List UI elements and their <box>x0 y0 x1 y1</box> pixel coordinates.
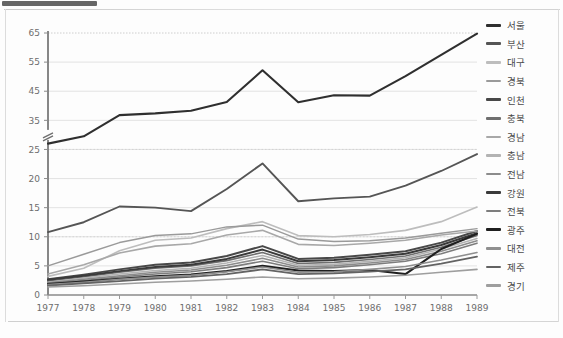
svg-text:5: 5 <box>34 261 40 271</box>
legend-swatch-icon <box>486 24 501 27</box>
svg-text:15: 15 <box>29 203 40 213</box>
legend-item[interactable]: 제주 <box>486 258 558 277</box>
legend-swatch-icon <box>486 173 501 176</box>
legend-item[interactable]: 충북 <box>486 109 558 128</box>
legend-item-label: 전북 <box>507 204 525 218</box>
svg-text:1986: 1986 <box>358 303 381 313</box>
legend-item[interactable]: 광주 <box>486 221 558 240</box>
plot-area: 051015202535455565 197719781979198019811… <box>0 0 563 338</box>
svg-text:10: 10 <box>29 232 41 242</box>
legend-item[interactable]: 전남 <box>486 165 558 184</box>
svg-text:1977: 1977 <box>37 303 60 313</box>
svg-text:1988: 1988 <box>430 303 453 313</box>
legend-swatch-icon <box>486 154 501 156</box>
legend-item-label: 경북 <box>507 74 525 88</box>
line-chart: 051015202535455565 197719781979198019811… <box>0 0 563 338</box>
legend-item[interactable]: 경기 <box>486 276 558 295</box>
y-axis: 051015202535455565 <box>29 28 48 300</box>
legend-swatch-icon <box>486 42 501 45</box>
svg-text:20: 20 <box>29 174 41 184</box>
legend-swatch-icon <box>486 117 501 120</box>
svg-text:1982: 1982 <box>215 303 238 313</box>
svg-text:1983: 1983 <box>251 303 274 313</box>
legend-item-label: 서울 <box>507 18 525 32</box>
legend-item[interactable]: 대전 <box>486 239 558 258</box>
svg-text:1987: 1987 <box>394 303 417 313</box>
legend-item-label: 대구 <box>507 55 525 69</box>
legend-swatch-icon <box>486 80 501 82</box>
legend-swatch-icon <box>486 284 501 287</box>
legend-item-label: 제주 <box>507 260 525 274</box>
legend-swatch-icon <box>486 247 501 250</box>
legend-item-label: 충남 <box>507 148 525 162</box>
svg-text:25: 25 <box>29 145 40 155</box>
legend-swatch-icon <box>486 61 501 64</box>
svg-text:1981: 1981 <box>180 303 203 313</box>
legend-swatch-icon <box>486 191 501 194</box>
legend-item[interactable]: 충남 <box>486 146 558 165</box>
series-line <box>48 34 477 144</box>
svg-text:45: 45 <box>29 86 40 96</box>
svg-text:65: 65 <box>29 28 40 38</box>
legend-swatch-icon <box>486 228 501 231</box>
x-axis: 1977197819791980198119821983198419851986… <box>37 295 489 313</box>
legend-item[interactable]: 부산 <box>486 35 558 54</box>
legend-item-label: 부산 <box>507 37 525 51</box>
legend-item-label: 충북 <box>507 111 525 125</box>
legend-item-label: 전남 <box>507 167 525 181</box>
legend-swatch-icon <box>486 266 501 269</box>
svg-text:55: 55 <box>29 57 40 67</box>
legend: 서울부산대구경북인천충북경남충남전남강원전북광주대전제주경기 <box>486 16 558 295</box>
legend-item[interactable]: 대구 <box>486 53 558 72</box>
legend-item-label: 광주 <box>507 223 525 237</box>
legend-item[interactable]: 강원 <box>486 183 558 202</box>
svg-text:1979: 1979 <box>108 303 131 313</box>
legend-item-label: 경기 <box>507 279 525 293</box>
svg-text:1985: 1985 <box>323 303 346 313</box>
legend-item[interactable]: 서울 <box>486 16 558 35</box>
svg-text:0: 0 <box>34 290 40 300</box>
axis-break-marker <box>43 130 53 141</box>
series-line <box>48 154 477 232</box>
svg-text:35: 35 <box>29 116 40 126</box>
svg-text:1980: 1980 <box>144 303 167 313</box>
legend-swatch-icon <box>486 98 501 101</box>
legend-item-label: 강원 <box>507 186 525 200</box>
legend-item[interactable]: 경북 <box>486 72 558 91</box>
legend-item[interactable]: 인천 <box>486 90 558 109</box>
legend-item-label: 대전 <box>507 241 525 255</box>
legend-item-label: 인천 <box>507 93 525 107</box>
svg-text:1978: 1978 <box>72 303 95 313</box>
legend-item-label: 경남 <box>507 130 525 144</box>
legend-swatch-icon <box>486 136 501 139</box>
page-canvas: 051015202535455565 197719781979198019811… <box>0 0 563 338</box>
legend-item[interactable]: 경남 <box>486 128 558 147</box>
legend-item[interactable]: 전북 <box>486 202 558 221</box>
svg-text:1984: 1984 <box>287 303 310 313</box>
svg-text:1989: 1989 <box>466 303 489 313</box>
series-lines <box>48 34 477 287</box>
legend-swatch-icon <box>486 210 501 213</box>
